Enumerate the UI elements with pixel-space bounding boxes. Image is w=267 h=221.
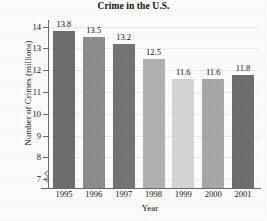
bar-2001 <box>232 75 254 188</box>
bar-1996 <box>83 37 105 188</box>
bar-1999 <box>172 79 194 188</box>
y-tick-mark <box>43 157 48 158</box>
bar-value-label: 12.5 <box>137 48 171 57</box>
bar-value-label: 13.2 <box>107 33 141 42</box>
y-tick-mark <box>43 48 48 49</box>
bar-series <box>49 20 258 188</box>
y-tick-label: 8 <box>21 153 41 162</box>
bar-1997 <box>113 44 135 188</box>
y-tick-label: 13 <box>21 44 41 53</box>
y-tick-mark <box>43 114 48 115</box>
y-tick-mark <box>43 70 48 71</box>
chart-figure: Crime in the U.S. Number of Crimes (mill… <box>0 0 267 221</box>
chart-title: Crime in the U.S. <box>0 1 267 11</box>
y-tick-mark <box>43 136 48 137</box>
x-category-label-2001: 2001 <box>226 190 260 199</box>
y-tick-label: 11 <box>21 88 41 97</box>
bar-1995 <box>53 31 75 188</box>
y-tick-label: 7 <box>21 175 41 184</box>
bar-2000 <box>202 79 224 188</box>
bar-1998 <box>143 59 165 188</box>
y-tick-mark <box>43 92 48 93</box>
y-tick-label: 10 <box>21 110 41 119</box>
y-tick-label: 9 <box>21 132 41 141</box>
x-axis-title: Year <box>40 203 260 213</box>
y-tick-label: 12 <box>21 66 41 75</box>
y-tick-label: 14 <box>21 23 41 32</box>
bar-value-label: 11.8 <box>226 64 260 73</box>
